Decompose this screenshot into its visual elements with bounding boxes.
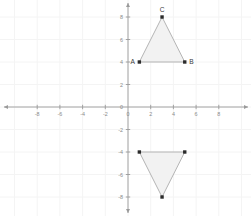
x-axis-tick-label: 8: [217, 111, 220, 117]
y-axis-tick-label: 6: [120, 37, 123, 43]
x-axis-tick-label: -6: [58, 111, 63, 117]
y-axis-tick-label: -4: [118, 149, 123, 155]
vertex-point: [138, 60, 141, 63]
vertex-label-b: B: [189, 58, 194, 65]
y-axis-arrow-bottom: [126, 209, 130, 213]
vertex-point: [138, 150, 141, 153]
x-axis-tick-label: 4: [172, 111, 175, 117]
coordinate-plane-figure: -8-6-4-20246886420-2-4-6-8ABC: [0, 0, 251, 216]
vertex-point: [183, 150, 186, 153]
x-axis-arrow-left: [4, 105, 8, 109]
x-axis-tick-label: -8: [35, 111, 40, 117]
x-axis-arrow-right: [244, 105, 248, 109]
vertex-label-c: C: [160, 6, 165, 13]
y-axis-arrow-top: [126, 3, 130, 7]
x-axis-tick-label: 0: [127, 111, 130, 117]
vertex-point: [183, 60, 186, 63]
x-axis-tick-label: -2: [103, 111, 108, 117]
vertex-point: [160, 195, 163, 198]
y-axis-tick-label: 0: [120, 104, 123, 110]
vertex-point: [160, 15, 163, 18]
y-axis-tick-label: 8: [120, 14, 123, 20]
y-axis-tick-label: -6: [118, 172, 123, 178]
vertex-label-a: A: [130, 58, 135, 65]
x-axis-tick-label: 2: [149, 111, 152, 117]
plot-svg: -8-6-4-20246886420-2-4-6-8ABC: [0, 0, 251, 216]
y-axis-tick-label: 2: [120, 82, 123, 88]
x-axis-tick-label: -4: [80, 111, 85, 117]
y-axis-tick-label: -8: [118, 194, 123, 200]
y-axis-tick-label: -2: [118, 127, 123, 133]
y-axis-tick-label: 4: [120, 59, 123, 65]
x-axis-tick-label: 6: [195, 111, 198, 117]
